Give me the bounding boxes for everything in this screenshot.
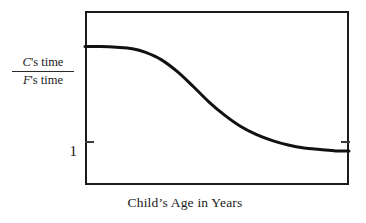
y-axis-tick-right [341,141,350,143]
y-axis-label-denominator-variable: F [23,73,31,87]
chart-figure: 1 C's time F's time Child’s Age in Years [0,0,366,223]
y-axis-label-numerator-text: 's time [31,55,63,69]
plot-frame [85,11,349,185]
y-axis-tick-left [85,141,94,143]
y-axis-label: C's time F's time [12,55,74,88]
y-axis-tick-label-one: 1 [55,143,77,160]
y-axis-label-denominator: F's time [12,72,74,88]
y-axis-label-numerator: C's time [12,55,74,72]
y-axis-label-numerator-variable: C [23,55,31,69]
y-axis-label-denominator-text: 's time [31,73,63,87]
x-axis-caption: Child’s Age in Years [85,194,285,211]
